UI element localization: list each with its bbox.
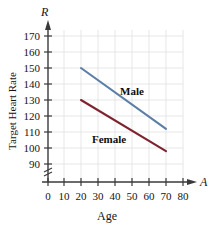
y-tick-label-170: 170	[14, 31, 40, 42]
x-tick-label-50: 50	[123, 191, 141, 202]
x-axis-title: Age	[0, 210, 214, 223]
chart-figure: 170 160 150 140 130 120 110 100 90 0 10 …	[0, 0, 214, 234]
y-axis-title: Target Heart Rate	[6, 52, 18, 170]
y-axis-variable-label: R	[41, 6, 48, 18]
x-tick-label-10: 10	[55, 191, 73, 202]
x-tick-label-70: 70	[157, 191, 175, 202]
x-tick-label-80: 80	[174, 191, 192, 202]
x-tick-label-30: 30	[89, 191, 107, 202]
series-label-male: Male	[120, 86, 144, 97]
series-label-female: Female	[92, 134, 126, 145]
x-axis-variable-label: A	[200, 176, 207, 188]
x-tick-label-40: 40	[106, 191, 124, 202]
x-tick-label-60: 60	[140, 191, 158, 202]
x-tick-label-20: 20	[72, 191, 90, 202]
